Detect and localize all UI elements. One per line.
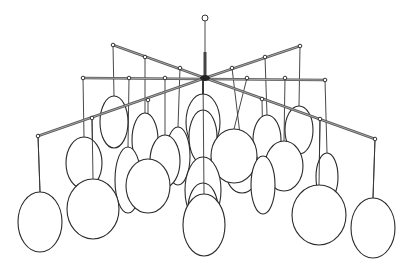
hanging-stem — [200, 15, 210, 81]
rod-node — [323, 78, 327, 82]
hanging-string — [325, 80, 327, 153]
rod-node — [36, 134, 40, 138]
rod-node — [230, 66, 234, 70]
sphere — [292, 185, 346, 245]
hanging-string — [113, 45, 114, 96]
center-hub — [200, 75, 210, 81]
rod-node — [298, 44, 302, 48]
rod-node — [373, 137, 377, 141]
rod-node — [146, 98, 150, 102]
rod-highlight — [113, 45, 205, 78]
hanging-string — [83, 78, 84, 137]
rod-node — [318, 117, 322, 121]
rod-node — [245, 76, 249, 80]
hanging-string — [128, 78, 129, 147]
sphere — [18, 192, 62, 252]
rod-node — [111, 43, 115, 47]
mobile-drawing — [0, 0, 414, 280]
rod-node — [143, 55, 147, 59]
hanging-string — [38, 136, 40, 192]
hanging-string — [178, 68, 180, 127]
sphere — [126, 159, 170, 213]
hanging-string — [299, 46, 300, 106]
hanging-string — [373, 139, 375, 198]
rod-highlight — [205, 46, 300, 78]
rod-node — [163, 76, 167, 80]
rod-node — [90, 116, 94, 120]
rod-node — [81, 76, 85, 80]
top-ring-icon — [202, 15, 208, 21]
hanging-string — [265, 57, 267, 115]
rod-node — [178, 66, 182, 70]
rod-node — [127, 76, 131, 80]
stem-sleeve — [204, 52, 207, 78]
rod-node — [263, 55, 267, 59]
sphere — [67, 179, 119, 239]
sphere — [183, 194, 225, 256]
rod-node — [283, 76, 287, 80]
rod-node — [260, 97, 264, 101]
sphere — [351, 198, 395, 258]
sphere — [100, 96, 128, 148]
sphere — [251, 156, 275, 214]
